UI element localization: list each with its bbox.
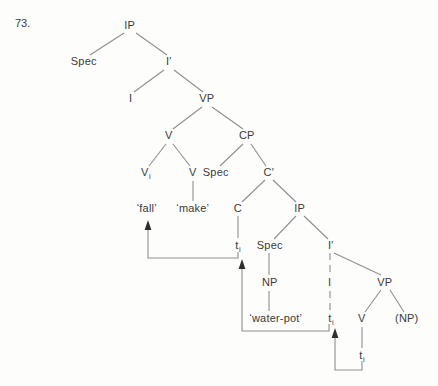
node-label: C′ (264, 166, 274, 178)
branch-vp-v-upper (173, 107, 202, 129)
node-subscript: i (332, 318, 334, 327)
node-trace-under-i: ti (328, 312, 334, 326)
node-v-make-parent: V (189, 166, 197, 180)
node-i-matrix: I (129, 92, 133, 106)
node-label: I (129, 92, 132, 104)
node-c-head: C (234, 202, 243, 216)
branch-ip-spec-embedded (274, 216, 296, 239)
branch-v-vi (149, 144, 166, 166)
node-label: VP (199, 92, 214, 104)
branch-vp-np-optional (390, 290, 404, 312)
arrowhead-to-fall (145, 220, 152, 230)
node-v-lower: V (358, 312, 366, 326)
node-label: C (234, 202, 242, 214)
node-label: (NP) (395, 312, 418, 324)
node-label: Spec (71, 55, 97, 67)
syntax-tree-figure: 73. (0, 0, 438, 386)
branch-ibar-vp-embedded (334, 253, 381, 275)
node-label: V (141, 166, 149, 178)
node-trace-under-v: ti (359, 349, 365, 363)
node-label: IP (294, 202, 305, 214)
branch-ibar-i-matrix (134, 70, 164, 92)
node-label: NP (262, 276, 278, 288)
arrowhead-to-trace-i (332, 328, 339, 338)
node-label: I (328, 276, 331, 288)
node-label: ‘fall’ (137, 202, 157, 214)
node-subscript: i (149, 172, 151, 181)
node-label: V (189, 166, 197, 178)
arrowhead-to-trace-c (239, 259, 246, 269)
node-i-embedded: I (328, 276, 332, 290)
node-ip-matrix: IP (124, 19, 135, 33)
branch-cbar-c (242, 180, 265, 202)
branch-cp-cbar (251, 144, 266, 166)
node-word-make: ‘make’ (176, 202, 210, 216)
node-label: t (359, 349, 362, 361)
node-label: ‘water-pot’ (249, 312, 302, 324)
node-ip-embedded: IP (294, 202, 305, 216)
node-v-upper: V (165, 129, 173, 143)
branch-cp-spec (220, 144, 243, 166)
node-label: t (235, 239, 238, 251)
tree-branches (90, 33, 404, 348)
node-spec-matrix: Spec (71, 55, 97, 69)
node-v-head-i: Vi (141, 166, 151, 180)
node-trace-under-c: ti (235, 239, 241, 253)
node-label: V (358, 312, 366, 324)
node-label: Spec (203, 166, 229, 178)
node-cp: CP (239, 129, 255, 143)
node-i-bar-matrix: I′ (166, 55, 172, 69)
node-spec-cp: Spec (203, 166, 229, 180)
node-label: I′ (328, 239, 334, 251)
node-spec-embedded: Spec (257, 239, 283, 253)
node-label: VP (377, 276, 392, 288)
node-c-bar: C′ (264, 166, 275, 180)
node-word-water-pot: ‘water-pot’ (249, 312, 302, 326)
node-i-bar-embedded: I′ (328, 239, 334, 253)
node-subscript: i (239, 245, 241, 254)
branch-ip-spec-matrix (90, 33, 124, 55)
branch-cbar-ip (273, 180, 296, 202)
node-label: Spec (257, 239, 283, 251)
tree-lines (0, 0, 438, 386)
branch-ip-ibar-matrix (136, 33, 167, 55)
node-word-fall: ‘fall’ (137, 202, 158, 216)
node-np: NP (262, 276, 278, 290)
node-label: V (165, 129, 173, 141)
node-vp-embedded: VP (377, 276, 393, 290)
branch-vp-cp (212, 107, 243, 129)
branch-ip-ibar-embedded (304, 216, 328, 239)
node-vp-matrix: VP (199, 92, 215, 106)
node-label: IP (124, 19, 135, 31)
node-subscript: i (363, 355, 365, 364)
node-label: ‘make’ (176, 202, 209, 214)
node-label: CP (239, 129, 255, 141)
arrow-trace-v-to-trace-i (335, 337, 362, 370)
arrow-trace-c-to-fall (148, 229, 238, 258)
branch-ibar-vp-matrix (174, 70, 203, 92)
node-label: t (328, 312, 331, 324)
branch-vp-v-lower (365, 290, 381, 312)
node-label: I′ (166, 55, 172, 67)
branch-v-v (173, 144, 190, 166)
node-np-optional: (NP) (395, 312, 419, 326)
